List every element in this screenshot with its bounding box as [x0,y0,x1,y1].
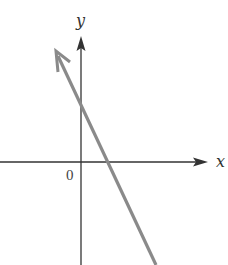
origin-label: 0 [66,167,74,183]
y-axis-label: y [75,11,86,30]
coordinate-plane: y x 0 [0,0,228,265]
y-axis [77,36,86,265]
x-axis [0,158,208,167]
x-axis-label: x [216,152,225,171]
plotted-line [56,51,156,265]
